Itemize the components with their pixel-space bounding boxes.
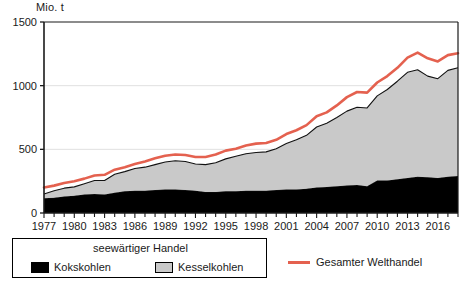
svg-text:1980: 1980 bbox=[62, 220, 86, 232]
svg-text:1000: 1000 bbox=[13, 80, 37, 92]
gray-square-swatch-icon bbox=[155, 262, 173, 273]
legend-item-gesamter-welthandel: Gesamter Welthandel bbox=[288, 256, 422, 268]
svg-text:0: 0 bbox=[31, 207, 37, 219]
svg-text:1500: 1500 bbox=[13, 16, 37, 28]
svg-text:500: 500 bbox=[19, 143, 37, 155]
legend-seaborne-trade: seewärtiger Handel Kokskohlen Kesselkohl… bbox=[12, 238, 267, 278]
svg-text:2004: 2004 bbox=[304, 220, 328, 232]
svg-text:1986: 1986 bbox=[123, 220, 147, 232]
svg-text:1977: 1977 bbox=[32, 220, 56, 232]
svg-text:2016: 2016 bbox=[426, 220, 450, 232]
svg-text:2013: 2013 bbox=[395, 220, 419, 232]
svg-text:1983: 1983 bbox=[92, 220, 116, 232]
svg-text:1989: 1989 bbox=[153, 220, 177, 232]
legend-group-title: seewärtiger Handel bbox=[13, 242, 268, 254]
legend-label-kokskohlen: Kokskohlen bbox=[54, 261, 111, 273]
svg-text:1995: 1995 bbox=[214, 220, 238, 232]
black-square-swatch-icon bbox=[31, 262, 49, 273]
red-line-swatch-icon bbox=[288, 261, 310, 264]
chart-root: Mio. t 050010001500197719801983198619891… bbox=[0, 0, 472, 282]
svg-text:1992: 1992 bbox=[183, 220, 207, 232]
svg-text:2001: 2001 bbox=[274, 220, 298, 232]
svg-text:2010: 2010 bbox=[365, 220, 389, 232]
legend-row: Kokskohlen Kesselkohlen bbox=[13, 261, 268, 277]
svg-text:2007: 2007 bbox=[335, 220, 359, 232]
legend-label-gesamter-welthandel: Gesamter Welthandel bbox=[316, 256, 422, 268]
legend-item-kesselkohlen: Kesselkohlen bbox=[155, 261, 243, 273]
legend-item-kokskohlen: Kokskohlen bbox=[31, 261, 111, 273]
legend-label-kesselkohlen: Kesselkohlen bbox=[178, 261, 243, 273]
svg-text:1998: 1998 bbox=[244, 220, 268, 232]
